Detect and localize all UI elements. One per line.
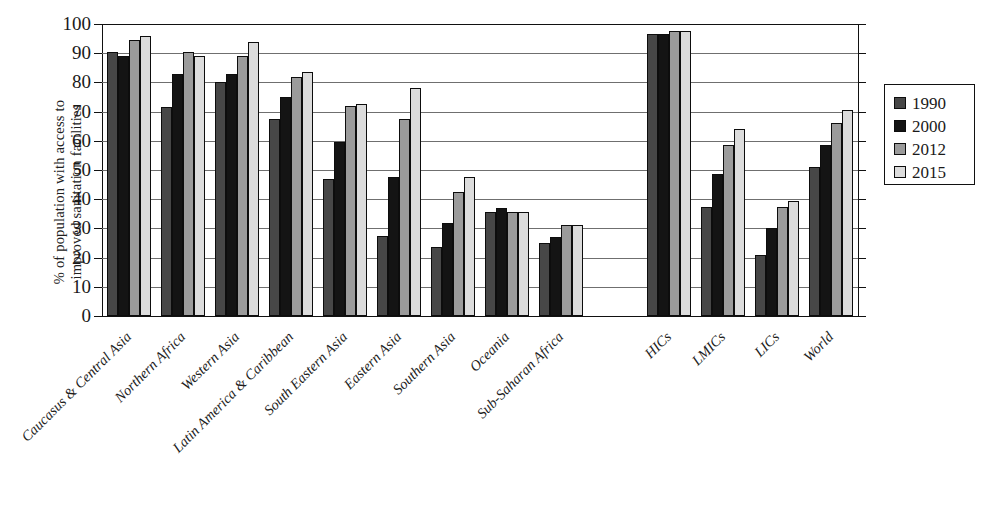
legend-item-2015[interactable]: 2015 bbox=[894, 161, 974, 183]
bar bbox=[237, 56, 248, 316]
y-tick-left-60 bbox=[94, 141, 102, 142]
x-axis-label: World bbox=[401, 328, 837, 527]
y-tick-right-50 bbox=[858, 170, 866, 171]
bar bbox=[431, 247, 442, 316]
y-tick-right-30 bbox=[858, 228, 866, 229]
bar bbox=[334, 142, 345, 316]
legend-label-2012: 2012 bbox=[912, 141, 946, 158]
bar bbox=[680, 31, 691, 316]
y-tick-label-90: 90 bbox=[72, 42, 91, 64]
bar bbox=[129, 40, 140, 316]
legend-item-2000[interactable]: 2000 bbox=[894, 115, 974, 137]
bar-group bbox=[534, 24, 588, 316]
bar bbox=[118, 56, 129, 316]
sanitation-access-bar-chart: % of population with access to improved … bbox=[0, 0, 989, 527]
bar bbox=[572, 225, 583, 316]
y-tick-label-70: 70 bbox=[72, 101, 91, 123]
legend-swatch-icon-2015 bbox=[894, 166, 906, 178]
y-tick-right-90 bbox=[858, 53, 866, 54]
x-axis-label: Latin America & Caribbean bbox=[0, 328, 297, 527]
bar bbox=[464, 177, 475, 316]
legend-swatch-icon-1990 bbox=[894, 97, 906, 109]
x-axis-label: Caucasus & Central Asia bbox=[0, 328, 135, 527]
bar bbox=[345, 106, 356, 316]
legend-label-2000: 2000 bbox=[912, 118, 946, 135]
x-axis-label: Oceania bbox=[77, 328, 513, 527]
bar bbox=[323, 179, 334, 316]
y-tick-left-10 bbox=[94, 287, 102, 288]
bar-group bbox=[480, 24, 534, 316]
bar-group bbox=[102, 24, 156, 316]
bar bbox=[669, 31, 680, 316]
bar bbox=[269, 119, 280, 316]
bar bbox=[766, 228, 777, 316]
bar-group bbox=[318, 24, 372, 316]
y-tick-left-0 bbox=[94, 316, 102, 317]
bar bbox=[658, 34, 669, 316]
y-axis-title-line-1: % of population with access to bbox=[51, 100, 68, 284]
legend: 1990 2000 2012 2015 bbox=[884, 84, 975, 185]
y-tick-left-40 bbox=[94, 199, 102, 200]
bar-group bbox=[426, 24, 480, 316]
bar-group bbox=[696, 24, 750, 316]
y-tick-left-90 bbox=[94, 53, 102, 54]
x-axis-label: Southern Asia bbox=[23, 328, 459, 527]
bar bbox=[226, 74, 237, 316]
x-axis-label: Northern Africa bbox=[0, 328, 189, 527]
bar bbox=[496, 208, 507, 316]
plot-area: 0102030405060708090100 bbox=[102, 24, 858, 316]
y-tick-right-80 bbox=[858, 82, 866, 83]
y-tick-left-80 bbox=[94, 82, 102, 83]
bar bbox=[453, 192, 464, 316]
y-tick-label-40: 40 bbox=[72, 188, 91, 210]
bar bbox=[172, 74, 183, 316]
bar bbox=[539, 243, 550, 316]
bar bbox=[302, 72, 313, 316]
bar bbox=[712, 174, 723, 316]
bar bbox=[788, 201, 799, 316]
y-tick-right-70 bbox=[858, 112, 866, 113]
y-tick-label-80: 80 bbox=[72, 71, 91, 93]
x-axis-label: Western Asia bbox=[0, 328, 243, 527]
bar bbox=[356, 104, 367, 316]
bar bbox=[507, 212, 518, 316]
y-tick-right-60 bbox=[858, 141, 866, 142]
bar bbox=[399, 119, 410, 316]
bar bbox=[485, 212, 496, 316]
bar bbox=[809, 167, 820, 316]
bar bbox=[280, 97, 291, 316]
x-axis-label: South Eastern Asia bbox=[0, 328, 351, 527]
bar-group bbox=[642, 24, 696, 316]
bar bbox=[291, 77, 302, 316]
bar-group bbox=[210, 24, 264, 316]
bar-group bbox=[804, 24, 858, 316]
bar bbox=[777, 207, 788, 317]
bar bbox=[161, 107, 172, 316]
x-axis-label: LICs bbox=[347, 328, 783, 527]
legend-item-1990[interactable]: 1990 bbox=[894, 92, 974, 114]
legend-item-2012[interactable]: 2012 bbox=[894, 138, 974, 160]
bar bbox=[248, 42, 259, 316]
bar-group bbox=[750, 24, 804, 316]
y-tick-label-30: 30 bbox=[72, 217, 91, 239]
x-axis-label: LMICs bbox=[293, 328, 729, 527]
legend-swatch-icon-2000 bbox=[894, 120, 906, 132]
bar bbox=[647, 34, 658, 316]
y-tick-right-0 bbox=[858, 316, 866, 317]
bar-group bbox=[372, 24, 426, 316]
y-tick-label-60: 60 bbox=[72, 130, 91, 152]
y-tick-left-20 bbox=[94, 258, 102, 259]
bar bbox=[755, 255, 766, 316]
bar bbox=[442, 223, 453, 316]
bar-group bbox=[264, 24, 318, 316]
bar bbox=[215, 82, 226, 316]
y-tick-right-20 bbox=[858, 258, 866, 259]
bars-layer bbox=[102, 24, 858, 316]
legend-label-2015: 2015 bbox=[912, 164, 946, 181]
bar bbox=[701, 207, 712, 317]
legend-swatch-icon-2012 bbox=[894, 143, 906, 155]
y-tick-label-0: 0 bbox=[82, 305, 92, 327]
x-axis-label: HICs bbox=[239, 328, 675, 527]
y-tick-left-30 bbox=[94, 228, 102, 229]
y-tick-right-10 bbox=[858, 287, 866, 288]
